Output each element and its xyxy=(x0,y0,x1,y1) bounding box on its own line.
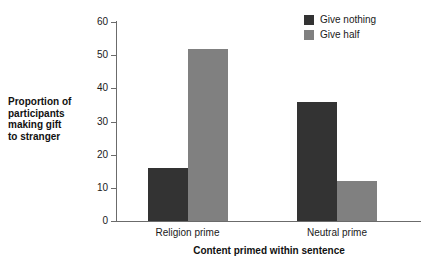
legend-swatch-icon xyxy=(304,15,314,25)
legend-item: Give nothing xyxy=(304,12,424,27)
legend-label: Give half xyxy=(320,30,359,40)
bar-religion-prime-give-half xyxy=(188,49,228,221)
y-axis-tick-label: 40 xyxy=(82,83,108,93)
bar-chart: 0102030405060 Proportion of participants… xyxy=(0,0,429,266)
y-axis-tick-label: 0 xyxy=(82,216,108,226)
y-axis-tick-label: 10 xyxy=(82,183,108,193)
legend-label: Give nothing xyxy=(320,15,376,25)
y-axis-title-line: Proportion of xyxy=(8,96,86,108)
x-axis-title: Content primed within sentence xyxy=(117,245,421,256)
y-axis-tick-label: 60 xyxy=(82,17,108,27)
y-axis-tick xyxy=(111,221,116,222)
y-axis-tick xyxy=(111,55,116,56)
x-axis-category-label: Religion prime xyxy=(128,227,248,238)
y-axis-tick xyxy=(111,88,116,89)
x-axis-category-label: Neutral prime xyxy=(277,227,397,238)
legend-item: Give half xyxy=(304,27,424,42)
y-axis-tick-label: 50 xyxy=(82,50,108,60)
y-axis-title-line: to stranger xyxy=(8,131,86,143)
y-axis-tick xyxy=(111,22,116,23)
legend: Give nothingGive half xyxy=(304,12,424,42)
bar-neutral-prime-give-half xyxy=(337,181,377,221)
y-axis-title-line: making gift xyxy=(8,119,86,131)
y-axis-tick-label: 20 xyxy=(82,150,108,160)
bar-religion-prime-give-nothing xyxy=(148,168,188,221)
plot-area xyxy=(117,22,421,221)
x-axis-line xyxy=(116,221,421,222)
y-axis-tick xyxy=(111,122,116,123)
y-axis-title-line: participants xyxy=(8,108,86,120)
bar-neutral-prime-give-nothing xyxy=(297,102,337,221)
y-axis-tick xyxy=(111,188,116,189)
legend-swatch-icon xyxy=(304,30,314,40)
y-axis-title: Proportion of participants making gift t… xyxy=(8,96,86,142)
y-axis-tick xyxy=(111,155,116,156)
